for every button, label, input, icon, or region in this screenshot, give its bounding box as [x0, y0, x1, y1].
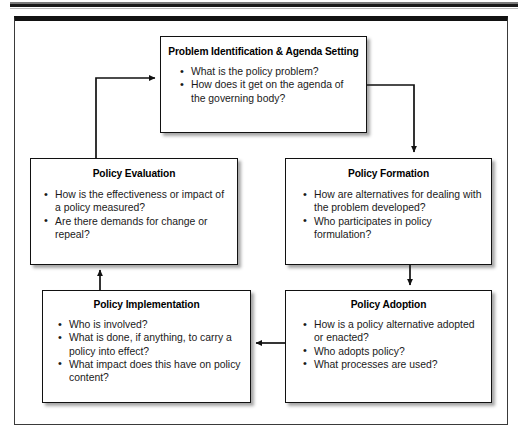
node-bullets-policy-evaluation: How is the effectiveness or impact of a … — [43, 188, 229, 241]
node-policy-evaluation: Policy Evaluation How is the effectivene… — [30, 158, 238, 265]
bullet-item: What is the policy problem? — [179, 65, 358, 78]
bullet-item: How are alternatives for dealing with th… — [302, 188, 483, 214]
node-bullets-policy-implementation: Who is involved? What is done, if anythi… — [57, 318, 242, 384]
node-policy-formation: Policy Formation How are alternatives fo… — [285, 158, 492, 265]
node-title-policy-adoption: Policy Adoption — [292, 299, 485, 310]
bullet-item: How is a policy alternative adopted or e… — [302, 318, 483, 344]
node-problem-identification: Problem Identification & Agenda Setting … — [160, 36, 367, 133]
policy-process-figure: Problem Identification & Agenda Setting … — [0, 0, 526, 443]
bullet-item: Are there demands for change or repeal? — [43, 215, 229, 241]
node-policy-implementation: Policy Implementation Who is involved? W… — [42, 290, 251, 403]
top-rule-lower — [10, 8, 518, 9]
bullet-item: What processes are used? — [302, 358, 483, 371]
bullet-item: What is done, if anything, to carry a po… — [57, 331, 242, 357]
node-title-problem-identification: Problem Identification & Agenda Setting — [167, 46, 360, 57]
bullet-item: What impact does this have on policy con… — [57, 358, 242, 384]
bullet-item: How is the effectiveness or impact of a … — [43, 188, 229, 214]
node-title-policy-evaluation: Policy Evaluation — [37, 168, 231, 179]
node-bullets-policy-formation: How are alternatives for dealing with th… — [302, 188, 483, 241]
bullet-item: How does it get on the agenda of the gov… — [179, 78, 358, 104]
bullet-item: Who is involved? — [57, 318, 242, 331]
top-rule-thick — [10, 4, 518, 7]
bullet-item: Who participates in policy formulation? — [302, 215, 483, 241]
bullet-item: Who adopts policy? — [302, 345, 483, 358]
node-policy-adoption: Policy Adoption How is a policy alternat… — [285, 290, 492, 403]
node-title-policy-implementation: Policy Implementation — [49, 299, 244, 310]
node-title-policy-formation: Policy Formation — [292, 168, 485, 179]
node-bullets-problem-identification: What is the policy problem? How does it … — [179, 65, 358, 105]
node-bullets-policy-adoption: How is a policy alternative adopted or e… — [302, 318, 483, 371]
